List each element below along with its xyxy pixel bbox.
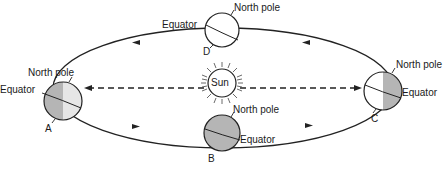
label-a-letter: A (45, 124, 52, 134)
arrow-to-a-icon (84, 85, 92, 91)
label-c-letter: C (371, 114, 378, 124)
label-d-equator: Equator (162, 20, 197, 30)
label-a-equator: Equator (0, 85, 35, 95)
label-b-letter: B (208, 154, 215, 164)
label-b-equator: Equator (240, 135, 275, 145)
label-c-equator: Equator (402, 88, 437, 98)
label-c-north-pole: North pole (396, 60, 442, 70)
earth-globe-d (205, 10, 239, 48)
orbit-arrow-bottom-right-icon (305, 123, 313, 128)
label-d-letter: D (203, 47, 210, 57)
label-b-north-pole: North pole (233, 105, 279, 115)
earth-globe-c (364, 68, 402, 113)
label-sun: Sun (211, 78, 229, 88)
earth-globe-b (204, 112, 240, 151)
orbit-arrow-top-left-icon (132, 40, 140, 45)
earth-globe-a (42, 77, 82, 123)
orbit-arrow-top-right-icon (302, 40, 310, 45)
arrow-to-c-icon (354, 85, 362, 91)
label-d-north-pole: North pole (234, 3, 280, 13)
orbit-arrow-bottom-left-icon (132, 124, 140, 129)
label-a-north-pole: North pole (28, 68, 74, 78)
orbit-diagram: North pole Equator A North pole Equator … (0, 0, 446, 173)
